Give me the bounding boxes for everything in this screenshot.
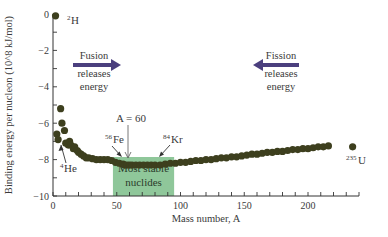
y-tick-label: −4 <box>38 81 49 92</box>
axis-tick-labels: 0501001502000−2−4−6−8−10 <box>33 9 315 212</box>
fusion-releases: releases <box>77 68 110 79</box>
y-tick-label: −10 <box>33 191 49 202</box>
fission-annotation: Fission releases energy <box>253 50 299 92</box>
x-tick-label: 200 <box>301 200 316 211</box>
h2-symbol: H <box>71 14 79 26</box>
y-axis-label: Binding energy per nucleon (10^8 kJ/mol) <box>3 15 15 194</box>
data-point <box>325 142 332 149</box>
fission-energy: energy <box>267 81 296 92</box>
kr84-label: 84 Kr <box>159 133 183 157</box>
fusion-energy: energy <box>80 81 109 92</box>
fusion-label: Fusion <box>80 50 109 61</box>
binding-energy-chart: Most stable nuclides 0501001502000−2−4−6… <box>0 0 388 237</box>
y-tick-label: −2 <box>38 45 49 56</box>
data-point <box>57 105 64 112</box>
y-tick-label: −8 <box>38 154 49 165</box>
x-tick-label: 150 <box>237 200 252 211</box>
axis-ticks <box>53 14 359 196</box>
fusion-arrow-head-icon <box>111 59 121 71</box>
fission-arrow-head-icon <box>253 59 263 71</box>
fission-releases: releases <box>264 68 297 79</box>
data-point <box>52 12 59 19</box>
u235-mass: 235 <box>346 154 357 162</box>
he4-symbol: He <box>64 162 77 174</box>
x-tick-label: 100 <box>173 200 188 211</box>
he4-arrowhead-icon <box>59 145 64 151</box>
most-stable-label-line2: nuclides <box>125 176 162 188</box>
fusion-annotation: Fusion releases energy <box>73 50 121 92</box>
u235-label: 235 U <box>346 154 366 166</box>
kr84-mass: 84 <box>163 133 171 141</box>
data-point <box>349 143 356 150</box>
fe56-label: 56 Fe <box>105 133 124 157</box>
y-tick-label: 0 <box>44 9 49 20</box>
kr84-symbol: Kr <box>171 133 183 145</box>
data-point <box>61 127 68 134</box>
y-tick-label: −6 <box>38 118 49 129</box>
fe56-symbol: Fe <box>113 133 124 145</box>
fe56-mass: 56 <box>105 133 113 141</box>
u235-symbol: U <box>358 154 366 166</box>
fission-label: Fission <box>266 50 297 61</box>
x-axis-label: Mass number, A <box>172 213 241 224</box>
data-point <box>55 136 62 143</box>
data-point <box>58 120 65 127</box>
x-tick-label: 50 <box>112 200 122 211</box>
x-tick-label: 0 <box>51 200 56 211</box>
h2-label: 2 H <box>67 14 79 26</box>
a60-text: A = 60 <box>116 112 147 124</box>
